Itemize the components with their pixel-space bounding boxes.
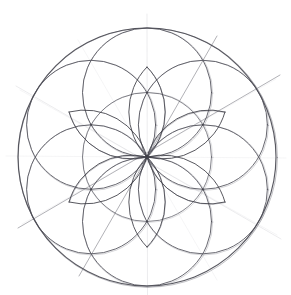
node-nw-center xyxy=(90,124,92,126)
node-se-center xyxy=(202,188,204,190)
drawing-canvas xyxy=(0,0,291,295)
node-hub xyxy=(145,155,149,159)
node-sw-center xyxy=(90,188,92,190)
node-s-center xyxy=(146,220,148,222)
node-n-center xyxy=(146,91,148,93)
rosette-figure xyxy=(0,0,291,295)
node-ne-center xyxy=(202,124,204,126)
paper-background xyxy=(0,0,291,295)
